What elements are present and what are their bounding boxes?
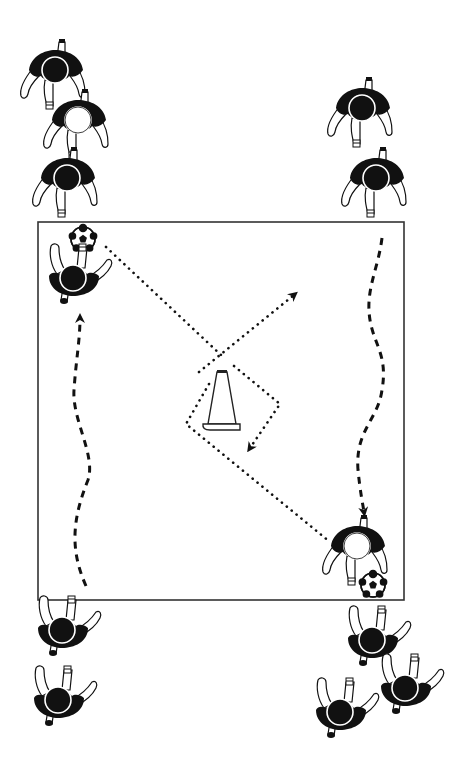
- player-queue-bottom-right-3: [316, 678, 379, 738]
- player-queue-top-right-1: [328, 77, 392, 147]
- player-queue-top-left-1: [21, 39, 85, 109]
- path-run-cone-to-topright: [199, 295, 294, 372]
- player-queue-bottom-left-2: [34, 666, 97, 726]
- player-queue-bottom-right-1: [348, 606, 411, 666]
- player-queue-bottom-left-1: [38, 596, 101, 656]
- path-loop-cone-right: [234, 366, 280, 448]
- path-pass-cone-to-right: [186, 384, 330, 542]
- path-dribble-left: [74, 318, 90, 586]
- players: [21, 39, 444, 738]
- path-pass-left-to-cone: [106, 247, 221, 355]
- path-dribble-right: [358, 238, 384, 512]
- cone-icon: [203, 370, 240, 430]
- drill-canvas: [0, 0, 470, 777]
- player-queue-top-left-3: [33, 147, 97, 217]
- player-queue-bottom-right-2: [381, 654, 444, 714]
- drill-diagram: Dribble and pass around cone drill: [0, 0, 470, 777]
- player-active-left: [49, 244, 112, 304]
- soccer-ball-icon: [359, 570, 388, 598]
- player-queue-top-right-2: [342, 147, 406, 217]
